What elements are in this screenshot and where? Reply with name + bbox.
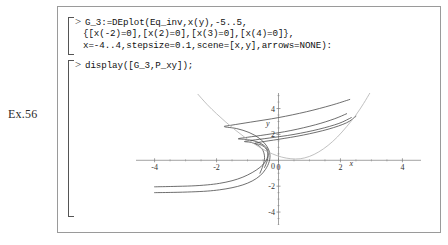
x-tick-label: 0 <box>277 163 281 172</box>
page-canvas: Ex.56 > G_3:=DEplot(Eq_inv,x(y),-5..5, {… <box>0 0 448 245</box>
prompt-marker-1: > <box>75 16 81 27</box>
y-tick-label: -2 <box>268 182 275 191</box>
solution-curve <box>244 118 351 174</box>
code-line-3[interactable]: x=-4..4,stepsize=0.1,scene=[x,y],arrows=… <box>83 40 332 51</box>
code-line-4[interactable]: display([G_3,P_xy]); <box>85 60 193 71</box>
plot-svg: -4-2024-4-2240xy <box>136 93 421 225</box>
origin-label: 0 <box>271 162 275 171</box>
code-line-2[interactable]: {[x(-2)=0],[x(2)=0],[x(3)=0],[x(4)=0]}, <box>83 28 294 39</box>
x-tick-label: 4 <box>400 163 404 172</box>
x-tick-label: -4 <box>151 163 158 172</box>
y-tick-label: 4 <box>271 105 275 114</box>
y-tick-label: -4 <box>268 208 275 217</box>
group-bracket-2 <box>68 60 74 217</box>
maple-worksheet-frame: > G_3:=DEplot(Eq_inv,x(y),-5..5, {[x(-2)… <box>57 6 441 233</box>
solution-curve <box>155 114 347 187</box>
solution-curve <box>155 99 350 192</box>
axis-name-label: y <box>265 119 270 128</box>
x-tick-label: 2 <box>338 163 342 172</box>
x-tick-label: -2 <box>213 163 220 172</box>
prompt-marker-2: > <box>75 59 81 70</box>
deplot-output-chart: -4-2024-4-2240xy <box>136 93 421 225</box>
exercise-label: Ex.56 <box>8 107 37 122</box>
group-bracket-1 <box>68 17 74 55</box>
code-line-1[interactable]: G_3:=DEplot(Eq_inv,x(y),-5..5, <box>85 17 247 28</box>
solution-curve <box>198 93 370 159</box>
axis-name-label: x <box>349 159 354 168</box>
